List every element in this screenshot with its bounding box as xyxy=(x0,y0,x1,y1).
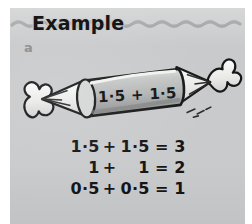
equation-operator: + xyxy=(103,178,117,199)
equation-operator: + xyxy=(103,157,117,178)
equation-rhs: 1·5 xyxy=(120,136,150,157)
sweet-motion-marks xyxy=(187,107,211,117)
equation-rhs: 1 xyxy=(120,157,150,178)
equation-list: 1·5 + 1·5 = 3 1 + 1 = 2 0·5 xyxy=(10,136,245,199)
page-title: Example xyxy=(32,10,124,36)
sweet-right-frill xyxy=(206,59,242,92)
equation-lhs: 1·5 xyxy=(70,136,100,157)
equation-row: 1 + 1 = 2 xyxy=(10,157,245,178)
equation-equals: = xyxy=(153,178,169,199)
equation-lhs: 0·5 xyxy=(70,178,100,199)
equation-row: 0·5 + 0·5 = 1 xyxy=(10,178,245,199)
equation-result: 1 xyxy=(172,178,186,199)
equation-result: 3 xyxy=(172,136,186,157)
equation-result: 2 xyxy=(172,157,186,178)
equation-equals: = xyxy=(153,136,169,157)
equation-operator: + xyxy=(103,136,117,157)
example-header: Example xyxy=(10,8,245,42)
equation-lhs: 1 xyxy=(70,157,100,178)
part-label-a: a xyxy=(24,41,33,55)
equation-row: 1·5 + 1·5 = 3 xyxy=(10,136,245,157)
page-root: Example a xyxy=(0,0,252,224)
equation-equals: = xyxy=(153,157,169,178)
example-panel: Example a xyxy=(10,8,245,224)
equation-rhs: 0·5 xyxy=(120,178,150,199)
